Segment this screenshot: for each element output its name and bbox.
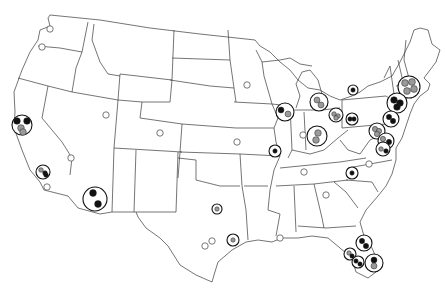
ok-tx-border (178, 158, 240, 186)
mn-wi-border (256, 50, 272, 104)
site-glyph-pittsburgh (346, 113, 358, 125)
mt-dakota-border (172, 30, 174, 80)
ny-vt-border (384, 66, 394, 94)
black-dot (352, 117, 356, 121)
black-dot (363, 243, 368, 248)
mt-wy-border (120, 74, 172, 80)
site-glyph-detroit (310, 93, 328, 111)
ks-ok-border (180, 152, 240, 154)
gray-dot (404, 88, 411, 95)
black-dot (359, 238, 364, 243)
site-marker-seattle (47, 26, 53, 32)
gray-dot (334, 116, 339, 121)
site-glyph-phoenix (83, 187, 107, 211)
black-dot (351, 88, 355, 92)
site-glyph-miami (365, 254, 383, 272)
site-glyph-cincinnati (307, 126, 327, 146)
site-marker-austin (202, 243, 208, 249)
site-glyph-orlando (352, 256, 364, 268)
site-glyph-chicago (276, 103, 294, 121)
site-glyph-cleveland (329, 108, 343, 122)
nd-sd-border (172, 58, 230, 60)
site-marker-san-antonio (209, 238, 215, 244)
sd-ne-border (170, 80, 234, 88)
nc-sc-border (346, 180, 378, 192)
black-dot (273, 149, 277, 153)
site-glyph-philadelphia (383, 111, 399, 127)
site-marker-las-vegas (68, 155, 74, 161)
gray-dot (379, 147, 384, 152)
gray-dot (315, 130, 322, 137)
wy-ut-co-border (118, 100, 182, 124)
site-glyph-los-angeles (36, 165, 50, 179)
black-dot (358, 262, 362, 266)
ky-tn-border (280, 158, 366, 168)
site-glyph-dallas (212, 204, 222, 214)
site-glyph-new-york (387, 93, 407, 113)
black-dot (354, 259, 358, 263)
site-marker-kansas-city (234, 139, 240, 145)
site-marker-minneapolis (244, 82, 250, 88)
black-dot (386, 114, 391, 119)
or-ca-nv-border (18, 78, 72, 92)
black-dot (44, 173, 49, 178)
la-tx-border (246, 210, 248, 240)
site-marker-denver (157, 130, 163, 136)
black-dot (14, 118, 21, 125)
gray-dot (314, 97, 320, 103)
site-marker-indianapolis (300, 132, 306, 138)
black-dot (24, 118, 31, 125)
gray-dot (411, 86, 418, 93)
gray-dot (409, 79, 416, 86)
site-marker-new-orleans (277, 235, 283, 241)
nm-tx-border (136, 152, 178, 212)
ga-fl-border (298, 226, 356, 228)
gray-dot (215, 207, 219, 211)
al-ga-border (314, 184, 324, 228)
az-nm-border (134, 150, 136, 212)
black-dot (90, 190, 97, 197)
wy-ne-border (142, 80, 172, 102)
us-map (0, 0, 445, 291)
id-mt-border (92, 24, 120, 76)
ok-ar-border (240, 154, 246, 210)
co-nm-ks (178, 124, 182, 178)
site-marker-raleigh (366, 161, 372, 167)
black-dot (390, 118, 395, 123)
gray-dot (402, 80, 409, 87)
black-dot (95, 201, 102, 208)
gray-dot (39, 168, 44, 173)
site-marker-san-diego (44, 184, 50, 190)
ms-river (268, 104, 280, 236)
black-dot (278, 107, 284, 113)
wv-va-border (340, 136, 378, 154)
site-marker-salt-lake (103, 112, 109, 118)
gray-dot (374, 131, 379, 136)
ga-sc-border (334, 182, 358, 208)
ut-az-co-nm (114, 148, 182, 152)
wa-id-border (82, 22, 88, 52)
gray-dot (318, 102, 324, 108)
black-dot (350, 171, 354, 175)
site-glyph-houston (227, 234, 239, 246)
gray-dot (285, 111, 291, 117)
dakotas-mn-border (228, 30, 236, 102)
site-glyph-jacksonville (356, 235, 372, 251)
site-glyph-richmond (376, 142, 390, 156)
gray-dot (380, 136, 385, 141)
black-dot (384, 149, 389, 154)
site-marker-portland (39, 44, 45, 50)
site-glyph-san-francisco (12, 115, 32, 135)
id-wy-border (118, 74, 120, 100)
or-id-border (72, 52, 82, 92)
site-marker-atlanta (323, 192, 329, 198)
gray-dot (231, 238, 235, 242)
black-dot (348, 117, 352, 121)
site-marker-nashville (301, 169, 307, 175)
black-dot (394, 104, 401, 111)
ne-ks-border (182, 124, 236, 128)
gray-dot (20, 129, 27, 136)
gray-dot (371, 263, 377, 269)
site-glyph-buffalo (348, 85, 358, 95)
in-oh-border (304, 112, 306, 150)
